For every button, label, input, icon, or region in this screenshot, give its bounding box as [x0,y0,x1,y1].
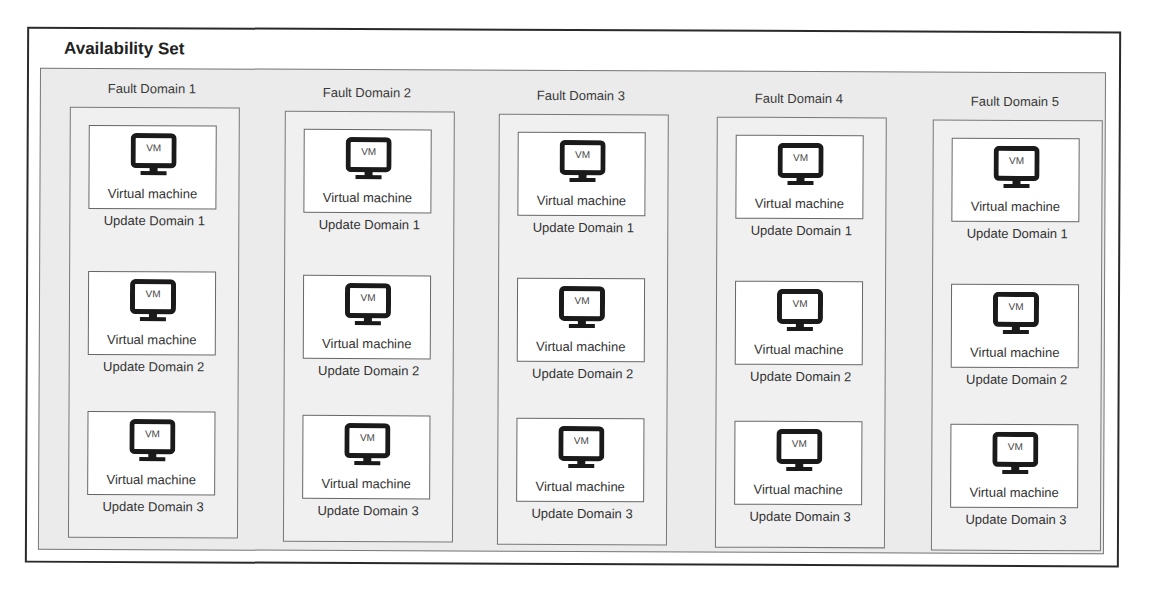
update-domain-3: VM Virtual machine Update Domain 3 [69,411,238,537]
virtual-machine-card[interactable]: VM Virtual machine [951,284,1079,369]
vm-icon-label: VM [346,146,392,157]
vm-icon-label: VM [345,292,391,303]
vm-icon-label: VM [994,155,1040,166]
virtual-machine-card[interactable]: VM Virtual machine [303,129,431,214]
monitor-icon: VM [993,292,1039,338]
fault-domain-1: Fault Domain 1 VM Virtual machine Update… [48,69,254,550]
fault-domain-3: Fault Domain 3 VM Virtual machine Update… [477,76,683,557]
update-domain-label: Update Domain 3 [932,512,1100,528]
virtual-machine-card[interactable]: VM Virtual machine [516,418,644,503]
update-domain-1: VM Virtual machine Update Domain 1 [70,125,239,251]
fault-domain-box: VM Virtual machine Update Domain 1 VM Vi… [68,107,240,539]
vm-icon-label: VM [129,428,175,439]
update-domain-2: VM Virtual machine Update Domain 2 [70,271,239,397]
availability-set-body: Fault Domain 1 VM Virtual machine Update… [38,68,1106,555]
virtual-machine-card[interactable]: VM Virtual machine [88,125,216,210]
virtual-machine-label: Virtual machine [303,476,429,492]
fault-domain-4: Fault Domain 4 VM Virtual machine Update… [695,79,901,560]
vm-icon-label: VM [130,288,176,299]
fault-domain-label: Fault Domain 1 [50,81,254,97]
fault-domain-label: Fault Domain 3 [479,88,683,104]
update-domain-label: Update Domain 2 [933,372,1101,388]
update-domain-1: VM Virtual machine Update Domain 1 [499,132,668,258]
monitor-icon: VM [346,137,392,183]
vm-icon-label: VM [778,152,824,163]
update-domain-label: Update Domain 1 [717,223,885,239]
update-domain-3: VM Virtual machine Update Domain 3 [498,418,667,544]
update-domain-label: Update Domain 2 [70,359,238,375]
virtual-machine-label: Virtual machine [89,186,215,202]
update-domain-label: Update Domain 2 [499,366,667,382]
virtual-machine-card[interactable]: VM Virtual machine [517,132,645,217]
update-domain-label: Update Domain 3 [498,506,666,522]
monitor-icon: VM [344,423,390,469]
fault-domain-box: VM Virtual machine Update Domain 1 VM Vi… [283,111,455,543]
update-domain-label: Update Domain 3 [284,503,452,519]
fault-domain-label: Fault Domain 4 [697,91,901,107]
update-domain-label: Update Domain 3 [716,509,884,525]
virtual-machine-card[interactable]: VM Virtual machine [735,281,863,366]
monitor-icon: VM [131,133,177,179]
update-domain-3: VM Virtual machine Update Domain 3 [716,421,885,547]
monitor-icon: VM [776,429,822,475]
availability-set: Availability Set Fault Domain 1 VM Virtu… [25,27,1121,568]
vm-icon-label: VM [776,438,822,449]
vm-icon-label: VM [558,435,604,446]
monitor-icon: VM [129,419,175,465]
virtual-machine-card[interactable]: VM Virtual machine [302,415,430,500]
update-domain-label: Update Domain 1 [285,217,453,233]
monitor-icon: VM [777,289,823,335]
virtual-machine-label: Virtual machine [518,339,644,355]
virtual-machine-card[interactable]: VM Virtual machine [735,135,863,220]
fault-domain-box: VM Virtual machine Update Domain 1 VM Vi… [497,114,669,546]
update-domain-label: Update Domain 2 [285,363,453,379]
vm-icon-label: VM [993,301,1039,312]
update-domain-2: VM Virtual machine Update Domain 2 [499,278,668,404]
virtual-machine-label: Virtual machine [517,479,643,495]
fault-domain-5: Fault Domain 5 VM Virtual machine Update… [911,81,1117,562]
monitor-icon: VM [559,286,605,332]
virtual-machine-card[interactable]: VM Virtual machine [950,424,1078,509]
vm-icon-label: VM [560,149,606,160]
virtual-machine-label: Virtual machine [304,190,430,206]
update-domain-1: VM Virtual machine Update Domain 1 [717,135,886,261]
monitor-icon: VM [777,143,823,189]
virtual-machine-label: Virtual machine [304,336,430,352]
virtual-machine-label: Virtual machine [88,472,214,488]
vm-icon-label: VM [992,441,1038,452]
update-domain-label: Update Domain 1 [933,226,1101,242]
monitor-icon: VM [130,279,176,325]
monitor-icon: VM [345,283,391,329]
vm-icon-label: VM [559,295,605,306]
update-domain-3: VM Virtual machine Update Domain 3 [284,415,453,541]
monitor-icon: VM [559,140,605,186]
fault-domain-label: Fault Domain 5 [913,93,1117,109]
diagram-canvas: Availability Set Fault Domain 1 VM Virtu… [0,0,1149,591]
monitor-icon: VM [992,432,1038,478]
virtual-machine-card[interactable]: VM Virtual machine [951,138,1079,223]
monitor-icon: VM [993,146,1039,192]
virtual-machine-card[interactable]: VM Virtual machine [303,275,431,360]
update-domain-1: VM Virtual machine Update Domain 1 [285,129,454,255]
update-domain-2: VM Virtual machine Update Domain 2 [285,275,454,401]
fault-domain-box: VM Virtual machine Update Domain 1 VM Vi… [715,117,887,549]
virtual-machine-card[interactable]: VM Virtual machine [88,271,216,356]
availability-set-title: Availability Set [64,39,184,60]
update-domain-2: VM Virtual machine Update Domain 2 [717,281,886,407]
virtual-machine-label: Virtual machine [89,332,215,348]
virtual-machine-label: Virtual machine [736,342,862,358]
virtual-machine-label: Virtual machine [952,199,1078,215]
vm-icon-label: VM [344,432,390,443]
update-domain-label: Update Domain 3 [69,499,237,515]
fault-domain-label: Fault Domain 2 [265,85,469,101]
fault-domain-box: VM Virtual machine Update Domain 1 VM Vi… [931,120,1103,552]
update-domain-2: VM Virtual machine Update Domain 2 [933,284,1102,410]
vm-icon-label: VM [131,142,177,153]
virtual-machine-card[interactable]: VM Virtual machine [87,411,215,496]
fault-domain-2: Fault Domain 2 VM Virtual machine Update… [263,73,469,554]
virtual-machine-card[interactable]: VM Virtual machine [734,421,862,506]
update-domain-label: Update Domain 1 [70,213,238,229]
virtual-machine-card[interactable]: VM Virtual machine [517,278,645,363]
virtual-machine-label: Virtual machine [735,482,861,498]
virtual-machine-label: Virtual machine [518,193,644,209]
